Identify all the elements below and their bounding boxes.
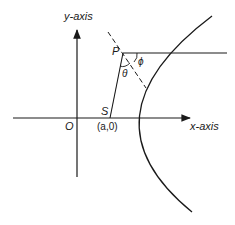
focal-line-sp xyxy=(110,53,123,118)
y-axis-label: y-axis xyxy=(63,10,93,22)
phi-label: ϕ xyxy=(138,56,144,67)
x-axis-label: x-axis xyxy=(189,120,219,132)
parabola-diagram: y-axis x-axis O S (a,0) P θ ϕ xyxy=(0,0,235,225)
focus-coords-label: (a,0) xyxy=(97,121,118,132)
origin-label: O xyxy=(65,120,74,132)
parabola-curve xyxy=(139,16,212,212)
theta-label: θ xyxy=(122,68,128,79)
angle-phi-arc xyxy=(134,53,137,62)
focus-label: S xyxy=(101,105,109,117)
point-p-label: P xyxy=(112,45,120,57)
angle-theta-arc xyxy=(120,63,130,67)
